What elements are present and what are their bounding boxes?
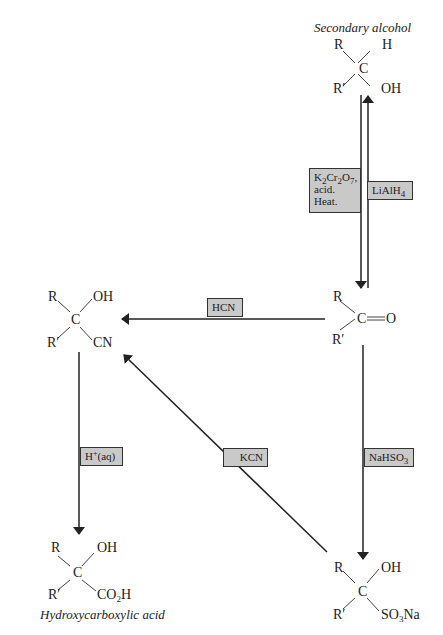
atom-r-prime: R′ [47,336,59,350]
reagent-hcn-box: HCN [207,298,243,317]
reagent-reduction-box: LiAlH4 [367,181,413,200]
reaction-arrows [0,0,443,635]
atom-r-prime: R′ [333,82,345,96]
atom-oh: OH [93,290,113,304]
atom-r-prime: R′ [48,588,60,602]
atom-o: O [386,312,396,326]
reagent-hydrolysis-box: H+(aq) [80,447,123,466]
atom-c: C [73,566,82,580]
atom-r: R [48,290,57,304]
atom-h: H [382,38,392,52]
reagent-bisulfite-box: NaHSO3 [364,448,414,467]
atom-c: C [71,313,80,327]
atom-r-prime: R′ [333,608,345,622]
atom-so3na: SO3Na [381,608,420,622]
atom-r: R [51,541,60,555]
reagent-oxidation-line3: Heat. [314,195,356,207]
reagent-oxidation-box: K2Cr2O7, acid. Heat. [309,168,361,213]
caption-secondary-alcohol: Secondary alcohol [314,20,411,36]
atom-c: C [358,585,367,599]
atom-co2h: CO2H [97,588,131,602]
atom-r: R [334,561,343,575]
caption-hydroxycarboxylic-acid: Hydroxycarboxylic acid [40,607,165,623]
reagent-oxidation-line1: K2Cr2O7, [314,171,356,183]
atom-oh: OH [97,541,117,555]
atom-r: R [333,290,342,304]
atom-oh: OH [381,561,401,575]
reagent-kcn-box: KCN [223,448,268,467]
atom-oh: OH [381,82,401,96]
atom-c: C [357,312,366,326]
atom-r: R [334,38,343,52]
atom-cn: CN [93,336,112,350]
atom-c: C [359,62,368,76]
atom-r-prime: R′ [332,333,344,347]
